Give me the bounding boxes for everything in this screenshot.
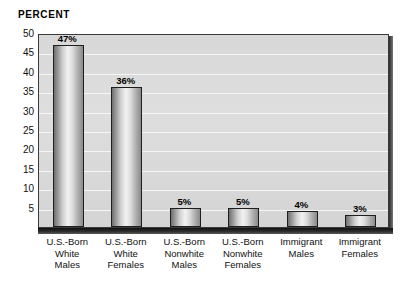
x-label-line: Immigrant	[280, 236, 322, 248]
x-label-line: White	[46, 248, 88, 260]
y-tick-label: 10	[2, 184, 34, 194]
x-category-label: U.S.-BornWhiteFemales	[105, 236, 147, 271]
y-tick-label: 30	[2, 107, 34, 117]
y-tick-label: 45	[2, 48, 34, 58]
gridline	[39, 74, 388, 75]
x-label-line: Nonwhite	[163, 248, 205, 260]
x-label-line: Females	[105, 259, 147, 271]
x-axis-base	[38, 228, 393, 234]
y-tick-label: 15	[2, 165, 34, 175]
x-label-line: U.S.-Born	[222, 236, 264, 248]
bar	[170, 208, 201, 227]
plot-right-shadow	[389, 36, 393, 232]
x-category-label: ImmigrantMales	[280, 236, 322, 259]
x-label-line: U.S.-Born	[46, 236, 88, 248]
y-tick-label: 25	[2, 126, 34, 136]
bar-value-label: 47%	[58, 33, 77, 44]
bar-value-label: 5%	[236, 196, 250, 207]
plot-area	[38, 34, 389, 228]
x-category-label: U.S.-BornNonwhiteFemales	[222, 236, 264, 271]
gridline	[39, 132, 388, 133]
bar	[111, 87, 142, 227]
x-category-label: U.S.-BornWhiteMales	[46, 236, 88, 271]
x-label-line: Males	[163, 259, 205, 271]
x-label-line: Immigrant	[339, 236, 381, 248]
bar-chart: PERCENT 5045403530252015105 U.S.-BornWhi…	[0, 0, 403, 282]
gridline	[39, 93, 388, 94]
gridline	[39, 113, 388, 114]
x-label-line: U.S.-Born	[163, 236, 205, 248]
bar-value-label: 36%	[116, 75, 135, 86]
gridline	[39, 190, 388, 191]
gridline	[39, 171, 388, 172]
gridline	[39, 151, 388, 152]
x-category-label: U.S.-BornNonwhiteMales	[163, 236, 205, 271]
x-label-line: U.S.-Born	[105, 236, 147, 248]
x-category-label: ImmigrantFemales	[339, 236, 381, 259]
x-label-line: White	[105, 248, 147, 260]
bar-value-label: 3%	[353, 203, 367, 214]
bar-value-label: 5%	[177, 196, 191, 207]
bar	[228, 208, 259, 227]
x-label-line: Males	[280, 248, 322, 260]
bar	[53, 45, 84, 227]
y-tick-label: 35	[2, 87, 34, 97]
x-label-line: Nonwhite	[222, 248, 264, 260]
bar	[287, 211, 318, 227]
x-label-line: Females	[222, 259, 264, 271]
y-tick-label: 40	[2, 68, 34, 78]
y-tick-label: 5	[2, 204, 34, 214]
gridline	[39, 210, 388, 211]
bar	[345, 215, 376, 227]
bar-value-label: 4%	[294, 199, 308, 210]
y-axis-tick-labels: 5045403530252015105	[0, 0, 34, 282]
y-tick-label: 20	[2, 145, 34, 155]
y-tick-label: 50	[2, 29, 34, 39]
x-label-line: Females	[339, 248, 381, 260]
x-label-line: Males	[46, 259, 88, 271]
gridline	[39, 54, 388, 55]
